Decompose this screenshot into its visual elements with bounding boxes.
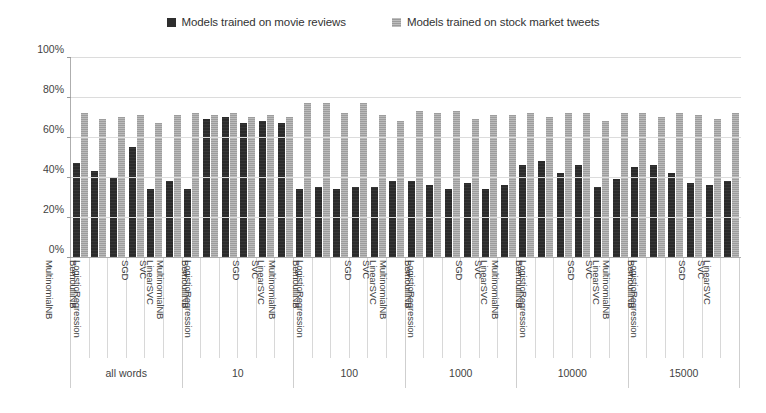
bar-pair	[443, 57, 462, 257]
bar-stock-market-tweets	[416, 111, 423, 257]
category-label: SGD	[119, 260, 130, 280]
bar-stock-market-tweets	[472, 119, 479, 257]
category-label: LogisticRegression	[518, 260, 529, 338]
bar-movie-reviews	[203, 119, 210, 257]
bar-stock-market-tweets	[230, 113, 237, 257]
bar-pair	[462, 57, 481, 257]
y-tick-label: 80%	[43, 83, 64, 95]
bar-movie-reviews	[240, 123, 247, 257]
gray-square-marker-icon	[392, 18, 401, 27]
bar-stock-market-tweets	[155, 123, 162, 257]
bar-pair	[313, 57, 332, 257]
category-label: LogisticRegression	[72, 260, 83, 338]
y-axis-tick	[67, 137, 71, 138]
y-tick-label: 40%	[43, 163, 64, 175]
bar-stock-market-tweets	[286, 117, 293, 257]
y-axis: 0%20%40%60%80%100%	[20, 49, 64, 257]
category-label: LogisticRegression	[295, 260, 306, 338]
category-label-cell: BernoulliNB	[647, 258, 666, 358]
category-label: MultinomialNB	[490, 260, 501, 319]
group-label: 1000	[406, 358, 518, 388]
group-label: 10	[183, 358, 295, 388]
bar-stock-market-tweets	[304, 103, 311, 257]
category-label-cell: LinearSVC	[721, 258, 739, 358]
legend-item-stock-market-tweets: Models trained on stock market tweets	[392, 16, 600, 28]
bars-layer	[71, 57, 741, 257]
bar-pair	[332, 57, 351, 257]
gridline	[71, 57, 741, 58]
bar-stock-market-tweets	[658, 117, 665, 257]
bar-pair	[722, 57, 741, 257]
bar-pair	[239, 57, 258, 257]
bar-movie-reviews	[445, 189, 452, 257]
bar-stock-market-tweets	[639, 113, 646, 257]
bar-movie-reviews	[501, 185, 508, 257]
bar-movie-reviews	[706, 185, 713, 257]
category-label: LinearSVC	[367, 260, 378, 305]
bar-stock-market-tweets	[527, 113, 534, 257]
y-tick-label: 100%	[37, 43, 64, 55]
bar-stock-market-tweets	[397, 121, 404, 257]
group-label: all words	[70, 358, 183, 388]
category-label: MultinomialNB	[44, 260, 55, 319]
bar-stock-market-tweets	[602, 121, 609, 257]
bar-movie-reviews	[668, 173, 675, 257]
bar-stock-market-tweets	[621, 113, 628, 257]
bar-movie-reviews	[687, 183, 694, 257]
bar-pair	[685, 57, 704, 257]
bar-group	[406, 57, 518, 257]
legend-item-movie-reviews: Models trained on movie reviews	[167, 16, 346, 28]
bar-stock-market-tweets	[192, 113, 199, 257]
category-label: LinearSVC	[256, 260, 267, 305]
category-label: LogisticRegression	[184, 260, 195, 338]
bar-movie-reviews	[371, 187, 378, 257]
bar-stock-market-tweets	[676, 113, 683, 257]
bar-movie-reviews	[129, 147, 136, 257]
bar-pair	[555, 57, 574, 257]
bar-pair	[108, 57, 127, 257]
bar-pair	[71, 57, 90, 257]
bar-pair	[183, 57, 202, 257]
bar-pair	[499, 57, 518, 257]
y-tick-label: 20%	[43, 203, 64, 215]
bar-movie-reviews	[278, 123, 285, 257]
y-axis-tick	[67, 217, 71, 218]
bar-pair	[369, 57, 388, 257]
bar-pair	[518, 57, 537, 257]
bar-movie-reviews	[464, 183, 471, 257]
category-label: LogisticRegression	[630, 260, 641, 338]
category-label: SGD	[565, 260, 576, 280]
bar-movie-reviews	[538, 161, 545, 257]
gridline	[71, 177, 741, 178]
group-label: 15000	[629, 358, 741, 388]
bar-pair	[611, 57, 630, 257]
bar-stock-market-tweets	[248, 117, 255, 257]
bar-pair	[257, 57, 276, 257]
chart-legend: Models trained on movie reviews Models t…	[0, 16, 766, 28]
bar-movie-reviews	[166, 181, 173, 257]
bar-stock-market-tweets	[360, 103, 367, 257]
bar-pair	[387, 57, 406, 257]
gridline	[71, 97, 741, 98]
category-label-group: MultinomialNBBernoulliNBLogisticRegressi…	[629, 258, 741, 358]
category-label: LinearSVC	[144, 260, 155, 305]
category-label-cell: BernoulliNB	[424, 258, 443, 358]
category-label: SGD	[454, 260, 465, 280]
category-label: SGD	[231, 260, 242, 280]
category-label: SGD	[677, 260, 688, 280]
bar-stock-market-tweets	[434, 113, 441, 257]
group-label: 100	[294, 358, 406, 388]
category-label: LinearSVC	[702, 260, 713, 305]
category-label: SGD	[342, 260, 353, 280]
category-label-cell: BernoulliNB	[313, 258, 332, 358]
bar-group	[629, 57, 741, 257]
bar-pair	[629, 57, 648, 257]
x-axis-group-labels: all words1010010001000015000	[70, 358, 740, 388]
y-tick-label: 0%	[49, 243, 64, 255]
bar-movie-reviews	[557, 173, 564, 257]
bar-stock-market-tweets	[565, 113, 572, 257]
plot-area	[70, 57, 741, 258]
bar-stock-market-tweets	[732, 113, 739, 257]
bar-chart: Models trained on movie reviews Models t…	[0, 0, 766, 413]
bar-group	[294, 57, 406, 257]
